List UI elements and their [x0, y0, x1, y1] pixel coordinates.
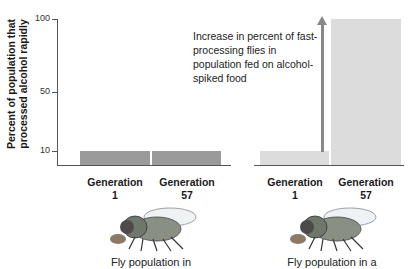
- caption-treated: Fly population in a: [257, 256, 407, 268]
- gen-number: 1: [80, 189, 150, 202]
- label-treated-gen1: Generation 1: [260, 176, 330, 202]
- fly-icon: [285, 205, 385, 253]
- tick-label-100: 100: [35, 13, 50, 23]
- label-treated-gen57: Generation 57: [331, 176, 401, 202]
- bar-treated-gen57: [331, 19, 401, 165]
- tick-50: [52, 92, 57, 93]
- label-control-gen1: Generation 1: [80, 176, 150, 202]
- y-axis-label: Percent of population that processed alc…: [5, 9, 29, 159]
- gen-label: Generation: [260, 176, 330, 189]
- bar-control-gen1: [80, 151, 150, 165]
- caption-control: Fly population in: [76, 256, 226, 268]
- y-axis: [57, 19, 58, 165]
- y-axis-label-line1: Percent of population that: [5, 9, 17, 159]
- arrow-up-icon: [317, 16, 327, 25]
- gen-label: Generation: [80, 176, 150, 189]
- annotation-text: Increase in percent of fast-processing f…: [193, 29, 323, 85]
- gen-label: Generation: [331, 176, 401, 189]
- tick-label-50: 50: [40, 86, 50, 96]
- y-axis-label-line2: processed alcohol rapidly: [17, 9, 29, 159]
- x-axis-left: [57, 165, 231, 166]
- gen-number: 1: [260, 189, 330, 202]
- tick-label-10: 10: [40, 145, 50, 155]
- bar-treated-gen1: [260, 151, 329, 165]
- x-axis-right: [254, 165, 404, 166]
- fly-icon: [105, 205, 205, 253]
- label-control-gen57: Generation 57: [152, 176, 222, 202]
- gen-number: 57: [152, 189, 222, 202]
- bar-control-gen57: [152, 151, 221, 165]
- gen-number: 57: [331, 189, 401, 202]
- gen-label: Generation: [152, 176, 222, 189]
- tick-100: [52, 19, 57, 20]
- tick-10: [52, 151, 57, 152]
